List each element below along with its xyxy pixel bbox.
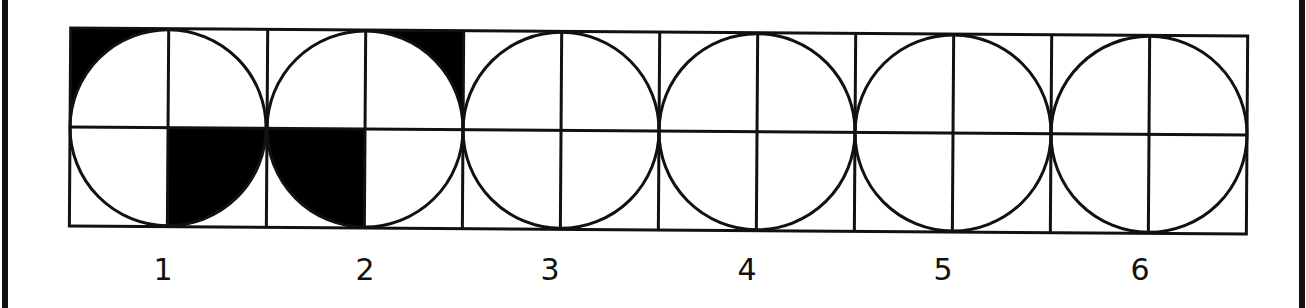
panel-4-label: 4 bbox=[717, 252, 777, 287]
panel-3-label: 3 bbox=[520, 252, 580, 287]
panel-5-label: 5 bbox=[913, 252, 973, 287]
panel-6-label: 6 bbox=[1110, 252, 1170, 287]
panel-1-label: 1 bbox=[133, 252, 193, 287]
panel-2-label: 2 bbox=[335, 252, 395, 287]
panel-grid bbox=[69, 28, 1247, 234]
